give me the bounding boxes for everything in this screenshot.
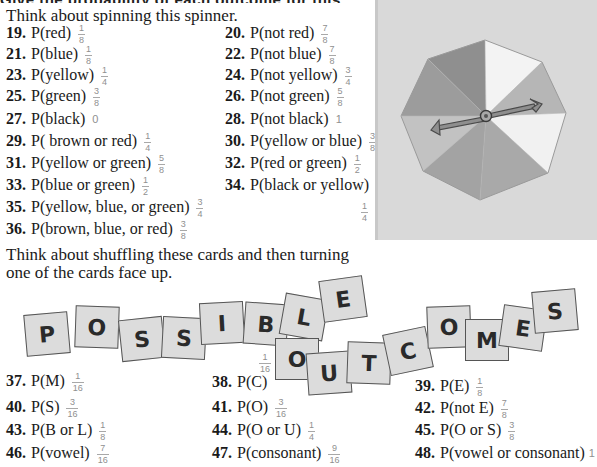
exercise-48: 48. P(vowel or consonant) 1	[415, 444, 595, 462]
spinner-photo	[375, 0, 597, 240]
exercise-expression: P(not black)	[250, 110, 329, 128]
numerator: 9	[331, 444, 338, 453]
denominator: 8	[508, 433, 515, 442]
exercise-number: 40.	[6, 398, 26, 416]
denominator: 2	[354, 166, 361, 175]
numerator: 7	[321, 24, 328, 33]
exercise-23: 23. P(yellow) 14	[6, 66, 108, 87]
numerator: 1	[101, 66, 108, 75]
denominator: 4	[101, 78, 108, 87]
exercise-46: 46. P(vowel) 716	[6, 444, 109, 465]
exercise-expression: P(B or L)	[31, 421, 92, 439]
numerator: 5	[337, 87, 344, 96]
denominator: 8	[476, 389, 483, 398]
exercise-38: 38. P(C)	[212, 373, 267, 391]
answer-fraction-38: 116	[259, 353, 271, 374]
exercise-number: 39.	[415, 377, 435, 395]
exercise-27: 27. P(black) 0	[6, 110, 98, 128]
exercise-40: 40. P(S) 316	[6, 398, 78, 419]
exercise-number: 31.	[6, 154, 26, 172]
exercise-number: 43.	[6, 421, 26, 439]
exercise-26: 26. P(not green) 58	[225, 87, 344, 108]
spinner-icon	[378, 0, 597, 240]
exercise-25: 25. P(green) 38	[6, 87, 100, 108]
exercise-42: 42. P(not E) 78	[415, 399, 508, 420]
numerator: 5	[158, 154, 165, 163]
exercise-45: 45. P(O or S) 38	[415, 421, 515, 442]
exercise-number: 27.	[6, 110, 26, 128]
exercise-expression: P(not blue)	[250, 45, 322, 63]
numerator: 1	[354, 154, 361, 163]
denominator: 16	[275, 410, 287, 419]
numerator: 7	[99, 444, 106, 453]
denominator: 16	[97, 456, 109, 465]
letter-card-s: S	[531, 288, 578, 334]
answer-fraction: 34	[196, 198, 203, 219]
exercise-number: 46.	[6, 444, 26, 462]
letter-card-s: S	[118, 316, 166, 362]
numerator: 3	[508, 421, 515, 430]
exercise-expression: P(vowel or consonant)	[440, 444, 585, 462]
cards-intro-line2: one of the cards face up.	[6, 264, 172, 281]
exercise-44: 44. P(O or U) 14	[212, 421, 315, 442]
exercise-31: 31. P(yellow or green) 58	[6, 154, 165, 175]
letter-card-p: P	[23, 311, 70, 357]
exercise-number: 22.	[225, 45, 245, 63]
answer-fraction: 18	[476, 377, 483, 398]
denominator: 4	[308, 433, 315, 442]
answer-fraction: 78	[329, 45, 336, 66]
exercise-expression: P(yellow or green)	[31, 154, 151, 172]
denominator: 8	[337, 99, 344, 108]
answer-fraction: 58	[337, 87, 344, 108]
exercise-32: 32. P(red or green) 12	[225, 154, 361, 175]
letter-card-c: C	[382, 326, 434, 376]
answer-fraction: 34	[345, 66, 352, 87]
exercise-19: 19. P(red) 18	[6, 24, 85, 45]
cards-intro-line1: Think about shuffling these cards and th…	[6, 246, 349, 263]
exercise-expression: P(M)	[31, 372, 65, 390]
denominator: 8	[93, 99, 100, 108]
exercise-number: 23.	[6, 66, 26, 84]
answer-fraction: 18	[78, 24, 85, 45]
exercise-expression: P( brown or red)	[31, 132, 137, 150]
answer-fraction: 38	[508, 421, 515, 442]
answer-fraction: 18	[99, 421, 106, 442]
exercise-number: 28.	[225, 110, 245, 128]
answer-fraction-34: 14	[361, 202, 368, 223]
exercise-expression: P(not yellow)	[250, 66, 338, 84]
answer-whole: 1	[336, 110, 342, 128]
answer-fraction: 78	[321, 24, 328, 45]
exercise-number: 41.	[212, 398, 232, 416]
exercise-expression: P(yellow, blue, or green)	[31, 198, 189, 216]
answer-fraction: 716	[97, 444, 109, 465]
exercise-expression: P(not red)	[250, 24, 314, 42]
numerator: 1	[85, 45, 92, 54]
answer-fraction: 14	[101, 66, 108, 87]
exercise-number: 33.	[6, 176, 26, 194]
exercise-expression: P(C)	[237, 373, 267, 391]
exercise-expression: P(O or S)	[440, 421, 501, 439]
numerator: 1	[476, 377, 483, 386]
denominator: 8	[158, 166, 165, 175]
answer-fraction: 18	[85, 45, 92, 66]
exercise-number: 25.	[6, 87, 26, 105]
numerator: 1	[74, 372, 81, 381]
answer-fraction: 38	[180, 220, 187, 241]
exercise-number: 42.	[415, 399, 435, 417]
answer-whole: 0	[92, 110, 98, 128]
exercise-22: 22. P(not blue) 78	[225, 45, 336, 66]
numerator: 1	[308, 421, 315, 430]
exercise-29: 29. P( brown or red) 14	[6, 132, 151, 153]
denominator: 16	[328, 456, 340, 465]
spinner-intro: Think about spinning this spinner.	[6, 7, 238, 24]
exercise-36: 36. P(brown, blue, or red) 38	[6, 220, 187, 241]
exercise-number: 35.	[6, 198, 26, 216]
answer-fraction: 12	[142, 176, 149, 197]
exercise-expression: P(green)	[31, 87, 86, 105]
exercise-expression: P(S)	[31, 398, 59, 416]
answer-fraction: 916	[328, 444, 340, 465]
denominator: 8	[329, 57, 336, 66]
exercise-number: 47.	[212, 444, 232, 462]
exercise-20: 20. P(not red) 78	[225, 24, 328, 45]
exercise-41: 41. P(O) 316	[212, 398, 287, 419]
